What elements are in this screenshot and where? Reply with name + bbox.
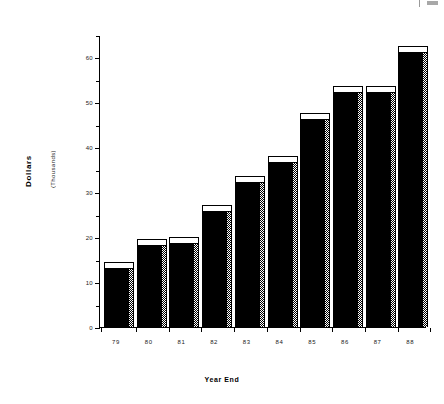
bar xyxy=(137,240,167,327)
bar-top-face xyxy=(202,205,232,212)
bar-front-face xyxy=(268,163,292,327)
x-tick-label: 81 xyxy=(177,339,185,345)
bar-top-face xyxy=(398,46,428,53)
bar-top-face xyxy=(333,86,363,93)
x-tick-origin xyxy=(101,328,102,332)
y-tick-label: 30 xyxy=(77,190,93,196)
bar-top-face xyxy=(366,86,396,93)
bar-front-face xyxy=(398,53,422,327)
bar-side-face xyxy=(193,244,199,327)
bar-side-face xyxy=(128,269,134,327)
y-tick-minor xyxy=(96,171,99,172)
bar-side-face xyxy=(357,93,363,327)
bar xyxy=(202,206,232,327)
bar-side-face xyxy=(390,93,396,327)
bar-side-face xyxy=(226,212,232,327)
bar-top-face xyxy=(300,113,330,120)
y-tick-label: 40 xyxy=(77,145,93,151)
x-tick-label: 88 xyxy=(406,339,414,345)
y-tick-major xyxy=(95,148,100,149)
bar xyxy=(104,263,134,327)
bar-top-face xyxy=(169,237,199,244)
bar-top-face xyxy=(104,262,134,269)
x-tick xyxy=(398,328,399,332)
bar-top-face xyxy=(137,239,167,246)
x-tick-label: 84 xyxy=(276,339,284,345)
y-tick-minor xyxy=(96,126,99,127)
bar-front-face xyxy=(104,269,128,327)
y-tick-major xyxy=(95,238,100,239)
bar-front-face xyxy=(235,183,259,327)
bar-front-face xyxy=(333,93,357,327)
x-tick-label: 86 xyxy=(341,339,349,345)
x-tick xyxy=(365,328,366,332)
y-tick-label: 0 xyxy=(77,325,93,331)
bar-side-face xyxy=(292,163,298,327)
bar-side-face xyxy=(422,53,428,327)
bar-top-face xyxy=(268,156,298,163)
crop-blot-mark xyxy=(427,1,438,5)
chart-figure: Dollars (Thousands) 0102030405060 798081… xyxy=(0,0,444,404)
y-axis-title: Dollars xyxy=(24,155,33,187)
x-tick-label: 80 xyxy=(145,339,153,345)
y-tick-label: 60 xyxy=(77,55,93,61)
y-tick-major xyxy=(95,283,100,284)
x-tick xyxy=(267,328,268,332)
y-axis-line xyxy=(99,36,100,328)
bar xyxy=(333,87,363,327)
y-tick-major xyxy=(95,328,100,329)
bar xyxy=(300,114,330,327)
x-tick-label: 83 xyxy=(243,339,251,345)
bar-front-face xyxy=(169,244,193,327)
bar xyxy=(235,177,265,327)
bar-front-face xyxy=(202,212,226,327)
bar xyxy=(398,47,428,327)
y-tick-label: 10 xyxy=(77,280,93,286)
x-tick-label: 82 xyxy=(210,339,218,345)
crop-rule-mark xyxy=(419,0,420,7)
x-tick-label: 85 xyxy=(308,339,316,345)
x-axis-title: Year End xyxy=(0,376,444,383)
bar-front-face xyxy=(137,246,161,327)
bar-front-face xyxy=(366,93,390,327)
plot-area: 0102030405060 79808182838485868788 xyxy=(99,36,426,328)
y-tick-minor xyxy=(96,306,99,307)
y-axis-units-label: (Thousands) xyxy=(50,150,56,188)
x-tick xyxy=(234,328,235,332)
bar xyxy=(366,87,396,327)
bar-side-face xyxy=(259,183,265,327)
bar-side-face xyxy=(161,246,167,327)
x-tick xyxy=(169,328,170,332)
y-tick-minor xyxy=(96,216,99,217)
y-tick-label: 20 xyxy=(77,235,93,241)
x-tick xyxy=(430,328,431,332)
y-tick-minor xyxy=(96,261,99,262)
x-axis-line xyxy=(99,327,426,328)
y-tick-major xyxy=(95,58,100,59)
y-tick-major xyxy=(95,193,100,194)
bar xyxy=(268,157,298,327)
x-tick xyxy=(332,328,333,332)
bar-top-face xyxy=(235,176,265,183)
bar-side-face xyxy=(324,120,330,327)
y-tick-label: 50 xyxy=(77,100,93,106)
bar xyxy=(169,238,199,327)
page-edge-crop-mark xyxy=(414,0,442,7)
x-tick-label: 79 xyxy=(112,339,120,345)
y-tick-major xyxy=(95,103,100,104)
y-tick-minor xyxy=(96,81,99,82)
x-tick xyxy=(300,328,301,332)
x-tick xyxy=(136,328,137,332)
x-tick-label: 87 xyxy=(374,339,382,345)
y-tick-minor xyxy=(96,36,99,37)
x-tick xyxy=(201,328,202,332)
bar-front-face xyxy=(300,120,324,327)
